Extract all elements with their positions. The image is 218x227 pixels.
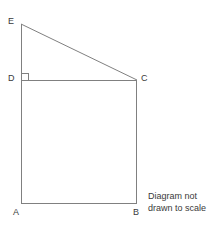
- caption-line-2: drawn to scale: [148, 202, 216, 214]
- right-angle-marker-icon: [22, 74, 29, 81]
- vertex-label-C: C: [141, 74, 148, 83]
- caption-line-1: Diagram not: [148, 190, 216, 202]
- geometry-diagram: E D C A B Diagram not drawn to scale: [0, 0, 218, 227]
- vertex-label-B: B: [133, 208, 139, 217]
- vertex-label-E: E: [8, 17, 14, 26]
- vertex-label-A: A: [13, 208, 19, 217]
- segment-E-C: [21, 24, 137, 80]
- not-to-scale-caption: Diagram not drawn to scale: [148, 190, 216, 214]
- vertex-label-D: D: [8, 74, 15, 83]
